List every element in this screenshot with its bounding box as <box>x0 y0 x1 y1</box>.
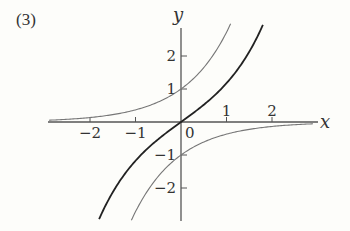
x-tick-label: 1 <box>222 102 232 120</box>
y-axis-label: y <box>172 4 184 25</box>
y-tick-label: −2 <box>154 179 176 197</box>
plot-area: −2−11221−1−20xy <box>0 0 350 231</box>
x-axis-label: x <box>320 111 330 132</box>
y-tick-label: 2 <box>166 47 176 65</box>
y-tick-label: 1 <box>166 80 176 98</box>
x-tick-label: −2 <box>79 124 101 142</box>
x-tick-label: −1 <box>124 124 146 142</box>
axis-labels: −2−11221−1−20xy <box>79 4 330 197</box>
x-tick-label: 2 <box>267 102 277 120</box>
graph-figure: (3) −2−11221−1−20xy <box>0 0 350 231</box>
y-tick-label: −1 <box>154 146 176 164</box>
origin-label: 0 <box>185 124 195 142</box>
